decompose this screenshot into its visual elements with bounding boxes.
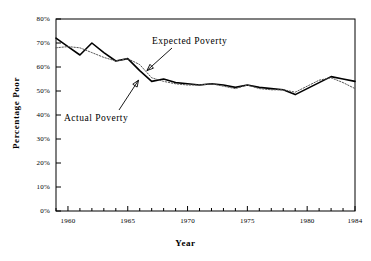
y-axis-title: Percentage Poor	[11, 53, 21, 173]
y-tick-label: 60%	[22, 63, 50, 71]
expected-poverty-leader-line	[147, 48, 172, 71]
y-tick-label: 80%	[22, 15, 50, 23]
series-line-expected-poverty	[56, 47, 355, 93]
actual-poverty-arrowhead-icon	[133, 80, 139, 87]
y-tick-label: 50%	[22, 87, 50, 95]
x-tick-label: 1984	[337, 217, 371, 225]
y-tick-label: 40%	[22, 111, 50, 119]
x-tick-label: 1980	[289, 217, 325, 225]
x-axis-title: Year	[0, 238, 371, 248]
y-tick-label: 10%	[22, 183, 50, 191]
expected-poverty-annotation-label: Expected Poverty	[152, 36, 227, 46]
data-series-layer	[56, 38, 355, 94]
x-tick-label: 1960	[50, 217, 86, 225]
x-axis-ticks	[56, 206, 355, 211]
y-tick-label: 30%	[22, 135, 50, 143]
y-tick-label: 70%	[22, 39, 50, 47]
x-tick-label: 1975	[229, 217, 265, 225]
series-line-actual-poverty	[56, 38, 355, 94]
actual-poverty-leader-line	[119, 80, 139, 110]
x-tick-label: 1970	[170, 217, 206, 225]
y-tick-label: 0%	[22, 207, 50, 215]
x-tick-label: 1965	[110, 217, 146, 225]
y-tick-label: 20%	[22, 159, 50, 167]
actual-poverty-annotation-label: Actual Poverty	[64, 113, 128, 123]
poverty-line-chart: 0%10%20%30%40%50%60%70%80% 1960196519701…	[0, 0, 371, 261]
